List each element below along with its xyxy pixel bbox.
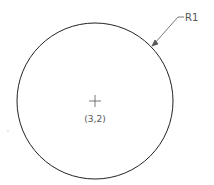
radius-leader-line — [152, 17, 184, 46]
drawing-canvas: (3,2) R1 — [0, 0, 214, 185]
radius-dimension-label: R1 — [185, 12, 198, 23]
stray-dot — [7, 130, 8, 131]
center-crosshair-icon — [89, 95, 101, 107]
center-coordinate-label: (3,2) — [84, 114, 105, 124]
